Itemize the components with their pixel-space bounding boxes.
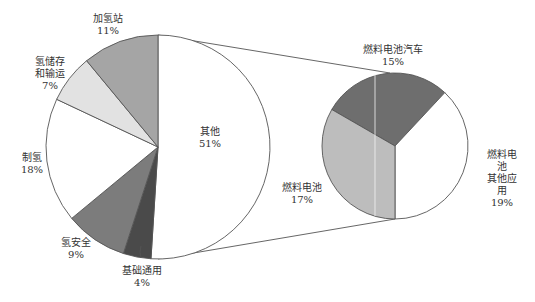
main-slice-label: 氢储存 和输运 7%	[35, 56, 65, 92]
main-slice-label: 其他 51%	[199, 126, 221, 150]
secondary-slice-label: 燃料电池 17%	[282, 182, 322, 206]
main-slice-label: 加氢站 11%	[93, 13, 123, 37]
main-slice-label: 基础通用 4%	[122, 265, 162, 289]
main-slice-label: 氢安全 9%	[61, 237, 91, 261]
secondary-slice-label: 燃料电池 其他应用 19%	[486, 149, 519, 209]
secondary-slice-label: 燃料电池汽车 15%	[363, 44, 423, 68]
main-pie	[46, 35, 270, 259]
main-slice-label: 制氢 18%	[21, 152, 43, 176]
secondary-pie	[322, 73, 468, 219]
